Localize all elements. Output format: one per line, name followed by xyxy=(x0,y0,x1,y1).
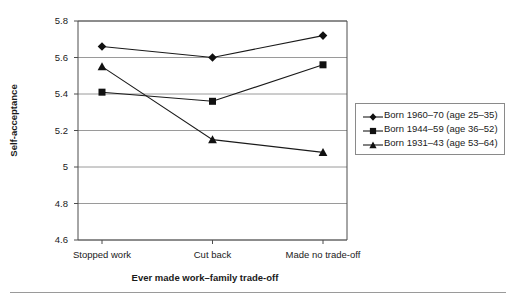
legend-item[interactable]: Born 1931–43 (age 53–64) xyxy=(356,136,504,150)
y-axis-tick-label: 5.8 xyxy=(38,16,68,26)
y-axis-tick-label: 5 xyxy=(38,162,68,172)
y-axis-tick-label: 5.4 xyxy=(38,89,68,99)
legend-item[interactable]: Born 1960–70 (age 25–35) xyxy=(356,108,504,122)
legend-item[interactable]: Born 1944–59 (age 36–52) xyxy=(356,122,504,136)
x-axis-title: Ever made work–family trade-off xyxy=(60,272,350,283)
y-axis-tick-label: 5.6 xyxy=(38,53,68,63)
y-axis-tick-marks xyxy=(74,21,78,240)
x-axis-tick-marks xyxy=(102,240,323,244)
legend-item-label: Born 1944–59 (age 36–52) xyxy=(384,123,498,135)
chart-figure: Self-acceptance 4.64.855.25.45.65.8 Stop… xyxy=(0,0,516,300)
y-axis-tick-label: 4.8 xyxy=(38,199,68,209)
legend-item-label: Born 1931–43 (age 53–64) xyxy=(384,137,498,149)
y-axis-tick-label: 5.2 xyxy=(38,126,68,136)
x-axis-tick-label: Made no trade-off xyxy=(263,250,383,260)
legend-item-label: Born 1960–70 (age 25–35) xyxy=(384,109,498,121)
square-marker-icon xyxy=(362,123,384,135)
triangle-marker-icon xyxy=(362,137,384,149)
y-axis-tick-label: 4.6 xyxy=(38,235,68,245)
footer-divider xyxy=(10,292,506,293)
y-axis-title: Self-acceptance xyxy=(8,61,19,181)
x-axis-tick-label: Cut back xyxy=(153,250,273,260)
diamond-marker-icon xyxy=(362,109,384,121)
x-axis-tick-label: Stopped work xyxy=(42,250,162,260)
chart-legend: Born 1960–70 (age 25–35) Born 1944–59 (a… xyxy=(355,103,505,155)
